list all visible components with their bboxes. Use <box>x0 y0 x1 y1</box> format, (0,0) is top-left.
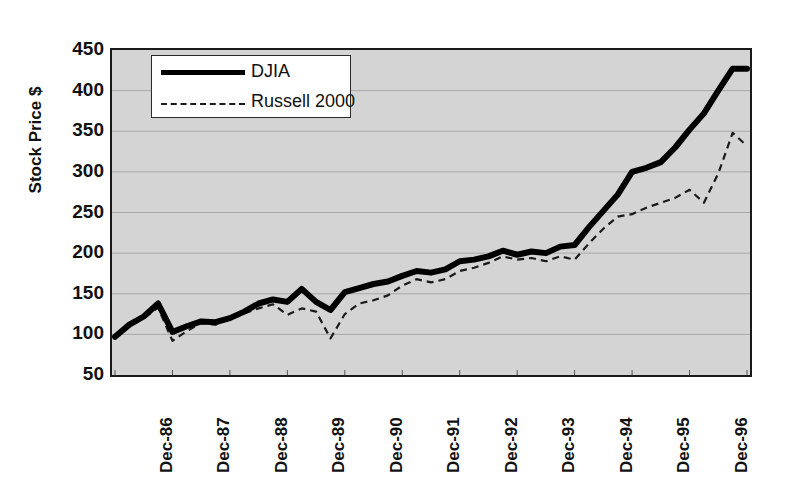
y-tick-label: 50 <box>46 364 104 383</box>
x-tick-label: Dec-86 <box>115 339 135 439</box>
x-tick-label: Dec-88 <box>230 339 250 439</box>
gridlines <box>112 91 750 335</box>
x-tick-label: Dec-95 <box>632 339 652 439</box>
x-tick-label: Dec-87 <box>172 339 192 439</box>
y-tick-label: 350 <box>46 120 104 139</box>
x-tick-label: Dec-92 <box>460 339 480 439</box>
x-tick-label: Dec-91 <box>402 339 422 439</box>
legend-label-russell-2000: Russell 2000 <box>251 91 355 112</box>
x-tick-label: Dec-97 <box>747 339 767 439</box>
y-tick-label: 200 <box>46 242 104 261</box>
x-tick-marks <box>115 370 747 375</box>
chart-figure: Stock Price $ 45040035030025020015010050… <box>0 0 791 490</box>
plot-area: DJIA Russell 2000 <box>110 48 752 377</box>
x-tick-label: Dec-89 <box>287 339 307 439</box>
legend-item-djia: DJIA <box>152 57 350 88</box>
x-tick-label: Dec-93 <box>517 339 537 439</box>
legend-swatch-djia <box>161 70 245 75</box>
x-tick-label: Dec-90 <box>345 339 365 439</box>
y-tick-label: 250 <box>46 202 104 221</box>
legend: DJIA Russell 2000 <box>151 55 351 118</box>
legend-item-russell-2000: Russell 2000 <box>152 87 350 118</box>
y-tick-label: 300 <box>46 161 104 180</box>
x-axis-tick-labels: Dec-86Dec-87Dec-88Dec-89Dec-90Dec-91Dec-… <box>110 377 752 490</box>
x-tick-label: Dec-94 <box>575 339 595 439</box>
legend-label-djia: DJIA <box>251 61 290 82</box>
y-tick-label: 100 <box>46 323 104 342</box>
legend-swatch-russell-2000 <box>161 103 245 105</box>
y-tick-label: 150 <box>46 283 104 302</box>
y-tick-label: 400 <box>46 80 104 99</box>
y-tick-label: 450 <box>46 39 104 58</box>
x-tick-label: Dec-96 <box>690 339 710 439</box>
y-axis-tick-labels: 45040035030025020015010050 <box>40 0 104 490</box>
